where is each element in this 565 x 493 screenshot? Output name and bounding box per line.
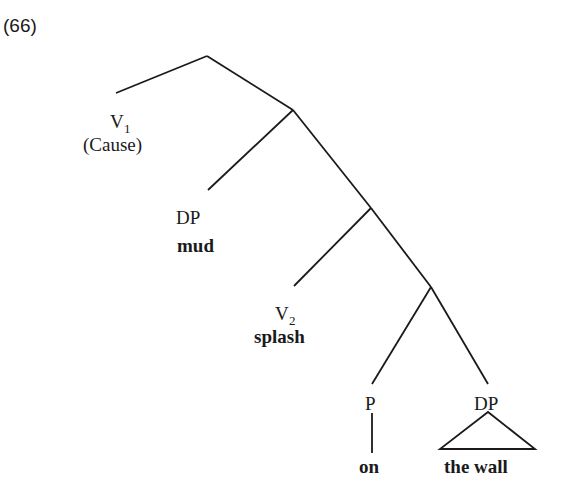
p-word: on: [359, 456, 380, 477]
branch-node4-to-dp-wall: [431, 287, 488, 384]
branch-node4-to-p: [372, 287, 431, 384]
branch-node2-to-dp-mud: [208, 110, 293, 190]
dp-wall-triangle: [440, 412, 535, 449]
v2-category: V: [275, 303, 289, 324]
node-v1: V 1 (Cause): [83, 111, 142, 156]
dp-wall-category: DP: [474, 393, 498, 414]
branch-root-to-v1: [116, 56, 207, 93]
dp-wall-word: the wall: [444, 456, 508, 477]
v1-category: V: [110, 111, 124, 132]
node-v2: V 2 splash: [254, 303, 305, 347]
dp-mud-category: DP: [176, 207, 200, 228]
v1-gloss: (Cause): [83, 134, 142, 156]
dp-mud-word: mud: [177, 235, 214, 256]
node-dp-wall: DP the wall: [440, 393, 535, 477]
branch-root-to-node2: [207, 56, 293, 110]
node-p: P on: [359, 393, 380, 477]
syntax-tree: (66) V 1 (Cause) DP mud V 2 splash P on …: [0, 0, 565, 493]
example-number: (66): [3, 15, 37, 36]
branch-node3-to-v2: [294, 208, 371, 286]
branch-node2-to-node3: [293, 110, 371, 208]
branch-node3-to-node4: [371, 208, 431, 287]
node-dp-mud: DP mud: [176, 207, 214, 256]
v2-word: splash: [254, 326, 305, 347]
p-category: P: [365, 393, 376, 414]
